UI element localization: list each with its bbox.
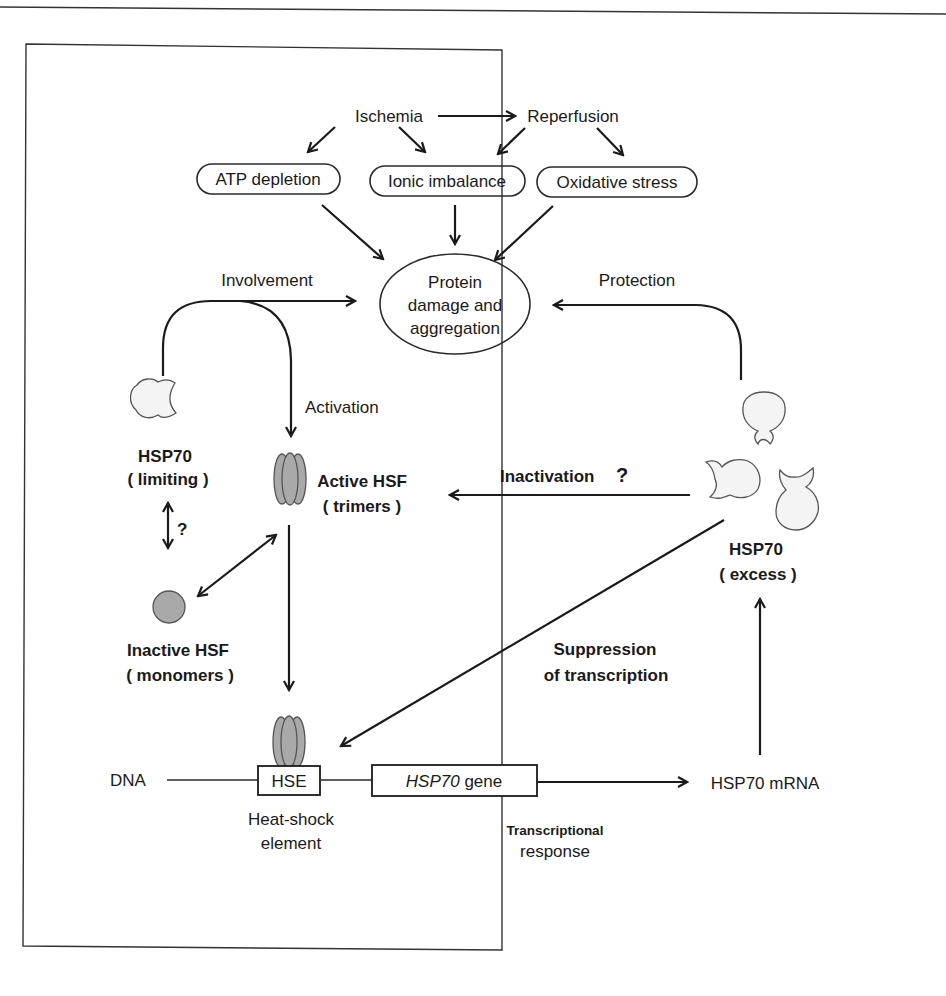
ischemia-label: Ischemia — [355, 107, 424, 126]
arrow-oxidative-protein — [495, 206, 553, 260]
monomer-trimer-arrow — [198, 535, 276, 596]
arrow-ischemia-ionic — [399, 127, 425, 152]
active-hsf-line2: ( trimers ) — [323, 497, 401, 516]
hsp70-limiting-node: HSP70 ( limiting ) ? — [127, 379, 208, 548]
inactive-hsf-node: Inactive HSF ( monomers ) — [126, 535, 276, 685]
inactivation-label: Inactivation — [500, 467, 594, 486]
atp-depletion-label: ATP depletion — [215, 170, 320, 189]
protein-damage-line1: Protein — [428, 273, 482, 292]
transcriptional-line2: response — [520, 842, 590, 861]
hse-caption-line2: element — [261, 834, 322, 853]
equilibrium-question: ? — [177, 520, 187, 539]
inactivation-question: ? — [616, 464, 628, 486]
hsf-trimer-icon — [274, 453, 306, 505]
hsp70-protein-icon — [130, 379, 176, 418]
suppression-arrow — [341, 520, 724, 746]
arrow-reperfusion-oxidative — [597, 128, 623, 155]
hsp70-protein-icon — [743, 392, 785, 444]
inactive-hsf-line1: Inactive HSF — [127, 641, 229, 660]
protection-pathway: Protection — [554, 271, 741, 380]
protein-damage-line2: damage and — [408, 296, 503, 315]
hsp70-limiting-line1: HSP70 — [138, 447, 192, 466]
hsp70-excess-line1: HSP70 — [729, 540, 783, 559]
involvement-arrow — [163, 301, 355, 376]
involvement-pathway: Involvement Activation — [163, 271, 379, 436]
hsp70-limiting-line2: ( limiting ) — [127, 470, 208, 489]
active-hsf-node: Active HSF ( trimers ) — [274, 453, 407, 690]
hsp70-mrna-label: HSP70 mRNA — [711, 774, 820, 793]
suppression-line1: Suppression — [554, 640, 657, 659]
protein-damage-line3: aggregation — [410, 319, 500, 338]
hsp70-gene-label: HSP70 gene — [406, 772, 502, 791]
protection-label: Protection — [599, 271, 676, 290]
top-causes: Ischemia Reperfusion ATP depletion Ionic… — [197, 107, 697, 260]
dna-label: DNA — [110, 771, 147, 790]
inactivation-pathway: Inactivation ? — [450, 464, 690, 495]
arrow-atp-protein — [322, 205, 383, 259]
activation-arrow — [240, 301, 291, 436]
arrow-ischemia-atp — [308, 127, 335, 152]
hsp70-protein-icon — [706, 460, 760, 499]
hse-label: HSE — [272, 772, 307, 791]
oxidative-stress-label: Oxidative stress — [557, 173, 678, 192]
page-top-rule — [0, 7, 946, 14]
suppression-line2: of transcription — [544, 666, 669, 685]
hsp70-protein-icon — [776, 468, 818, 530]
activation-label: Activation — [305, 398, 379, 417]
ionic-imbalance-label: Ionic imbalance — [388, 172, 506, 191]
hsp70-excess-line2: ( excess ) — [719, 565, 797, 584]
inactive-hsf-line2: ( monomers ) — [126, 666, 234, 685]
protection-arrow — [554, 305, 741, 380]
transcriptional-line1: Transcriptional — [507, 823, 604, 838]
gene-row: DNA HSE HSP70 gene HSP70 mRNA Heat-shock… — [110, 716, 820, 861]
hsf-monomer-icon — [153, 591, 185, 623]
involvement-label: Involvement — [221, 271, 313, 290]
hsf-trimer-bound-icon — [273, 716, 305, 768]
reperfusion-label: Reperfusion — [527, 107, 619, 126]
active-hsf-line1: Active HSF — [317, 472, 407, 491]
suppression-pathway: Suppression of transcription — [341, 520, 724, 746]
protein-damage-node: Protein damage and aggregation — [380, 254, 530, 354]
hsp70-excess-node: HSP70 ( excess ) — [706, 392, 818, 755]
hse-caption-line1: Heat-shock — [248, 810, 334, 829]
diagram-canvas: Ischemia Reperfusion ATP depletion Ionic… — [0, 0, 946, 996]
